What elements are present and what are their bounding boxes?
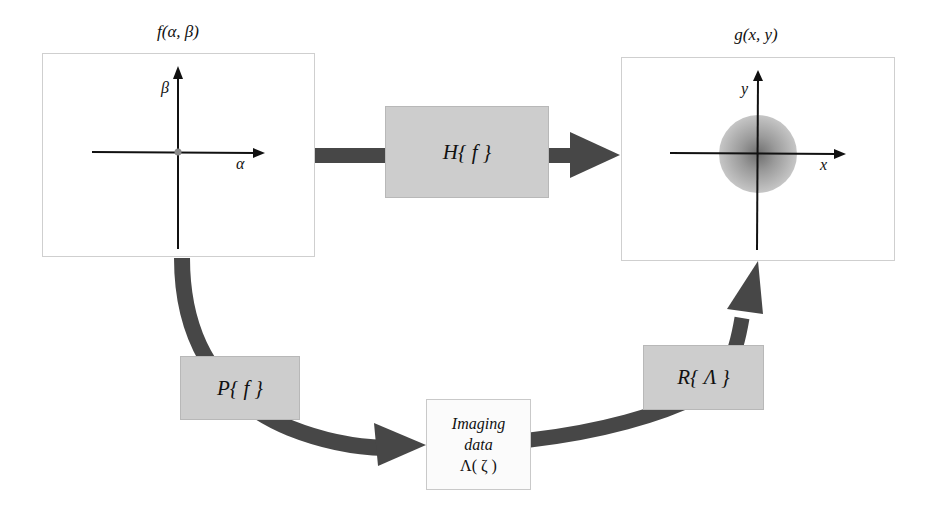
output-axes bbox=[622, 58, 896, 262]
imaging-data-symbol: Λ( ζ ) bbox=[460, 455, 497, 476]
beta-axis-label: β bbox=[161, 79, 169, 97]
alpha-axis-label: α bbox=[236, 155, 244, 173]
y-arrowhead-icon bbox=[753, 70, 763, 81]
imaging-data-box: Imaging data Λ( ζ ) bbox=[426, 399, 531, 490]
output-title: g(x, y) bbox=[656, 25, 856, 45]
input-title: f(α, β) bbox=[78, 22, 278, 42]
projection-operator-box: P{ f } bbox=[180, 356, 300, 420]
y-axis-label: y bbox=[741, 80, 748, 98]
output-panel: x y bbox=[621, 57, 895, 261]
imaging-data-line1: Imaging bbox=[452, 413, 505, 434]
forward-operator-box: H{ f } bbox=[385, 106, 549, 198]
x-arrowhead-icon bbox=[834, 149, 846, 159]
reconstruction-operator-label: R{ Λ } bbox=[677, 365, 729, 390]
point-source-icon bbox=[175, 149, 182, 156]
input-axes bbox=[43, 54, 316, 258]
projection-operator-label: P{ f } bbox=[217, 376, 263, 401]
input-panel: α β bbox=[42, 53, 315, 257]
x-arrowhead-icon bbox=[253, 148, 265, 158]
forward-operator-label: H{ f } bbox=[443, 140, 491, 165]
imaging-data-line2: data bbox=[464, 434, 492, 455]
x-axis-label: x bbox=[820, 156, 827, 174]
reconstruction-operator-box: R{ Λ } bbox=[643, 345, 764, 410]
y-arrowhead-icon bbox=[173, 66, 183, 79]
